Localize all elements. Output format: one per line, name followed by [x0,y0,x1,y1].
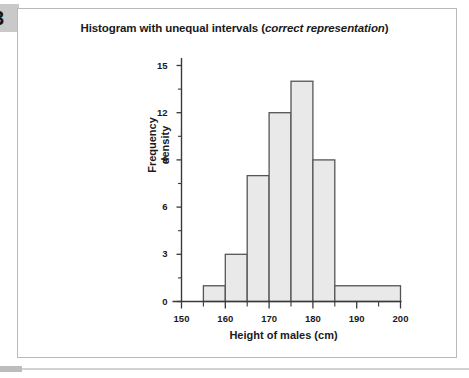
x-axis-tick-label: 160 [210,314,240,324]
histogram-bar [203,286,225,302]
histogram-bar [335,286,401,302]
y-axis-tick-label: 0 [142,297,168,307]
x-axis-tick-label: 150 [167,314,197,324]
x-axis-tick-label: 170 [254,314,284,324]
histogram-bar [269,113,291,302]
y-axis-tick-label: 12 [142,108,168,118]
histogram-bar [247,176,269,302]
footer-divider-cap [0,366,22,372]
y-axis-tick-label: 9 [142,155,168,165]
histogram-bar [291,81,313,301]
x-axis-tick-label: 180 [298,314,328,324]
x-axis-tick-label: 190 [342,314,372,324]
y-axis-tick-label: 6 [142,202,168,212]
x-axis-tick-label: 200 [386,314,416,324]
histogram-bar [313,160,335,302]
y-axis-tick-label: 3 [142,249,168,259]
y-axis-tick-label: 15 [142,61,168,71]
histogram-bar [225,254,247,301]
figure-page: 3 Histogram with unequal intervals (corr… [0,0,469,378]
footer-divider [0,368,469,370]
